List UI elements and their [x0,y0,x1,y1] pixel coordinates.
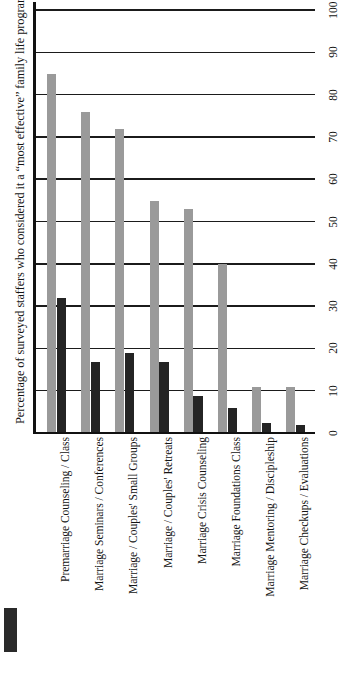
bar-offered [47,74,56,434]
y-tick-label-text: 100 [326,1,340,18]
gridline-30 [36,305,315,307]
y-tick-label-text: 70 [326,131,340,143]
x-axis-label: Marriage Foundations Class [228,437,246,681]
tick-50 [307,221,315,223]
tick-90 [307,52,315,54]
bar-most-effective [228,408,238,433]
y-tick-label-text: 40 [326,258,340,270]
y-tick-label-90: 90 [318,45,348,59]
y-tick-label-30: 30 [318,299,348,313]
tick-100 [307,9,315,11]
tick-60 [307,178,315,180]
bar-group [252,11,272,434]
y-tick-label-text: 20 [326,343,340,355]
tick-20 [307,348,315,350]
y-tick-label-20: 20 [318,341,348,355]
gridline-70 [36,136,315,138]
y-tick-label-text: 60 [326,173,340,185]
bar-offered [150,201,159,434]
bar-most-effective [91,362,101,434]
bar-group [81,11,101,434]
gridline-10 [36,390,315,392]
x-axis-label: Marriage Checkups / Evaluations [296,437,314,681]
tick-10 [307,390,315,392]
bar-offered [286,387,295,434]
gridline-50 [36,221,315,223]
x-axis-label: Premarriage Counseling / Class [57,437,75,681]
bar-most-effective [159,362,169,434]
y-tick-label-50: 50 [318,215,348,229]
y-tick-label-80: 80 [318,88,348,102]
plot-interior [36,0,315,436]
gridline-40 [36,263,315,265]
bar-group [184,11,204,434]
gridline-100 [36,9,315,11]
x-axis-category-labels: Premarriage Counseling / ClassMarriage S… [33,437,333,682]
x-axis-baseline [36,432,315,434]
plot-area [33,0,315,436]
gridline-80 [36,94,315,96]
y-tick-label-text: 10 [326,385,340,397]
y-tick-label-text: 30 [326,300,340,312]
y-tick-label-40: 40 [318,257,348,271]
y-tick-label-10: 10 [318,384,348,398]
bar-most-effective [125,353,135,433]
tick-30 [307,305,315,307]
bar-group [218,11,238,434]
bar-offered [252,387,261,434]
tick-40 [307,263,315,265]
y-tick-label-text: 50 [326,216,340,228]
y-tick-label-text: 0 [326,430,340,436]
gridline-20 [36,348,315,350]
gridline-90 [36,52,315,54]
x-axis-label: Marriage / Couples' Retreats [160,437,178,681]
tick-70 [307,136,315,138]
y-tick-label-text: 90 [326,47,340,59]
y-tick-label-100: 100 [318,3,348,17]
y-axis-tick-labels: 0102030405060708090100 [318,0,348,440]
tick-80 [307,94,315,96]
y-axis-title: Percentage of surveyed staffers who cons… [9,0,31,424]
legend [4,608,18,652]
x-axis-label: Marriage Seminars / Conferences [91,437,109,681]
bar-group [115,11,135,434]
y-tick-label-70: 70 [318,130,348,144]
bar-group [150,11,170,434]
bar-chart: Percentage of surveyed staffers who cons… [0,0,348,682]
y-tick-label-text: 80 [326,89,340,101]
bar-offered [184,209,193,433]
legend-swatch-dark [4,608,17,652]
bar-offered [218,264,227,433]
x-axis-label: Marriage Mentoring / Discipleship [262,437,280,681]
x-axis-label: Marriage / Couples' Small Groups [125,437,143,681]
bar-offered [115,129,124,434]
y-tick-label-60: 60 [318,172,348,186]
gridline-60 [36,178,315,180]
x-axis-label: Marriage Crisis Counseling [194,437,212,681]
bar-group [286,11,306,434]
bar-offered [81,112,90,433]
bar-most-effective [57,298,67,433]
bar-group [47,11,67,434]
bar-most-effective [193,396,203,434]
